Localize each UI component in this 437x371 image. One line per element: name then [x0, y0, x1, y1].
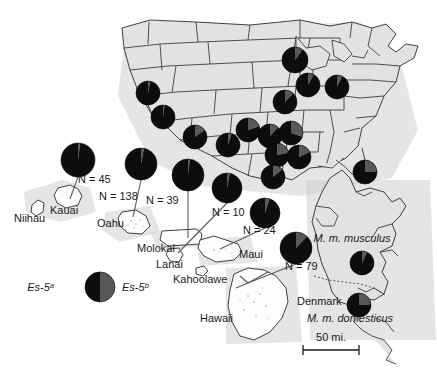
pie-us-nd [282, 47, 308, 73]
legend: Es-5a Es-5b [27, 272, 149, 302]
sample-size-label-maui: N = 24 [243, 224, 276, 236]
legend-swatch [85, 272, 115, 302]
place-label-molokai: Molokai [137, 242, 175, 254]
pie-kauai [61, 143, 95, 177]
place-label-maui: Maui [239, 248, 263, 260]
map-figure: N = 45N = 138N = 39N = 10N = 24N = 79 Ni… [0, 0, 437, 371]
pie-us-sca [183, 125, 207, 149]
pie-us-mn [296, 73, 320, 97]
sample-size-label-oahu: N = 138 [99, 190, 138, 202]
pie-us-az [216, 133, 240, 157]
place-label-niihau: Niihau [14, 212, 45, 224]
pie-us-pnw [136, 81, 160, 105]
pie-us-la [261, 165, 285, 189]
figure-panel: N = 45N = 138N = 39N = 10N = 24N = 79 Ni… [0, 0, 437, 371]
sample-size-label-lanai: N = 10 [212, 206, 245, 218]
pie-us-ia [273, 90, 297, 114]
place-label-kahoolawe: Kahoolawe [173, 273, 227, 285]
pie-us-ga [287, 145, 311, 169]
legend-label-es5b: Es-5b [122, 281, 149, 293]
place-label-lanai: Lanai [156, 258, 183, 270]
legend-label-es5a: Es-5a [27, 281, 54, 293]
subspecies-label-mmdomesticus: M. m. domesticus [307, 312, 394, 324]
subspecies-label-mmmusculus: M. m. musculus [313, 232, 391, 244]
pie-musculus [350, 251, 374, 275]
scale-bar-label: 50 mi. [316, 331, 346, 343]
pie-lanai [212, 173, 242, 203]
sample-size-label-kauai: N = 45 [78, 173, 111, 185]
pie-us-nca [151, 105, 175, 129]
pie-us-tn [279, 121, 303, 145]
place-label-oahu: Oahu [97, 217, 124, 229]
sample-size-label-hawaii: N = 79 [285, 260, 318, 272]
pie-molokai [172, 159, 204, 191]
place-label-hawaii: Hawaii [200, 312, 233, 324]
pie-us-ky [265, 143, 289, 167]
place-label-kauai: Kauai [50, 204, 78, 216]
pie-us-fl [353, 160, 377, 184]
place-label-denmark: Denmark [297, 295, 342, 307]
sample-size-label-molokai: N = 39 [146, 194, 179, 206]
pie-us-mi [325, 75, 349, 99]
pie-us-mo [236, 118, 260, 142]
pie-oahu [125, 148, 157, 180]
